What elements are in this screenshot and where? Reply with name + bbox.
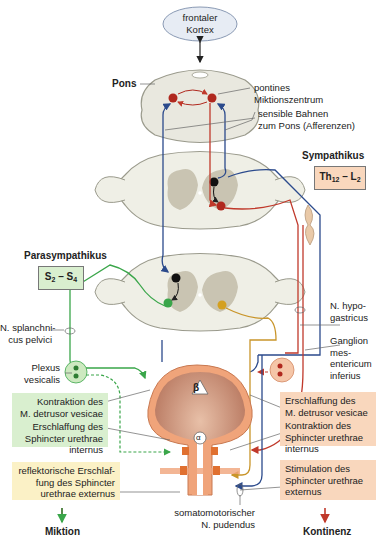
cortex-label-line1: frontaler (182, 12, 218, 24)
pudendal-label: somatomotorischer N. pudendus (170, 507, 255, 530)
outcome-continence: Kontinenz (303, 526, 351, 538)
seg-main: S (45, 271, 52, 282)
green-item2-line1: Erschlaffung des (17, 421, 103, 433)
ganglion-mesentericum (270, 358, 294, 382)
orange2-line2: Sphincter urethrae (285, 475, 371, 487)
beta-receptor: β (193, 382, 199, 394)
seg-main: Th (319, 171, 331, 182)
green-item2-line2: Sphincter urethrae (17, 433, 103, 445)
splanchnic-line1: N. splanchni- (0, 322, 52, 334)
orange-item2-line1: Kontraktion des (285, 420, 371, 432)
plexus-vesicalis (65, 361, 87, 383)
pudendal-line1: somatomotorischer (170, 507, 255, 519)
orange-item1-line2: M. detrusor vesicae (285, 407, 371, 419)
parasympathetic-title: Parasympathikus (24, 250, 107, 262)
spinal-cord-thoracolumbar (95, 152, 305, 230)
orange-item1-line1: Erschlaffung des (285, 395, 371, 407)
plexus-label: Plexus vesicalis (0, 362, 60, 385)
reflex-relaxation-box: reflektorische Erschlaf- fung des Sphinc… (12, 462, 120, 500)
orange2-line1: Stimulation des (285, 463, 371, 475)
pontine-center-line1: pontines (254, 82, 323, 94)
cortex-label: frontaler Kortex (182, 12, 218, 35)
seg-mid: – S (55, 271, 73, 282)
green-item2-line3: internus (17, 444, 103, 456)
afferent-line1: sensible Bahnen (258, 108, 355, 120)
orange-item2-line2: Sphincter urethrae (285, 432, 371, 444)
pontine-center-line2: Miktionszentrum (254, 94, 323, 106)
ganglion-line3: entericum (330, 358, 372, 370)
hypogastric-label: N. hypo- gastricus (330, 300, 368, 323)
seg-sub2: 2 (357, 176, 361, 183)
ganglion-line1: Ganglion (330, 335, 372, 347)
seg-sub2: 4 (73, 276, 77, 283)
afferent-label: sensible Bahnen zum Pons (Afferenzen) (258, 108, 355, 131)
ganglion-line4: inferius (330, 370, 372, 382)
hypogastric-line2: gastricus (330, 312, 368, 324)
pudendal-line2: N. pudendus (170, 519, 255, 531)
pons-label: Pons (112, 78, 136, 90)
yellow-line2: fung des Sphincter (17, 477, 115, 489)
hypogastric-line1: N. hypo- (330, 300, 368, 312)
ganglion-line2: mes- (330, 347, 372, 359)
sympathetic-effects-box: Erschlaffung des M. detrusor vesicae Kon… (280, 392, 376, 446)
splanchnic-line2: cus pelvici (0, 334, 52, 346)
external-sphincter-stimulation-box: Stimulation des Sphincter urethrae exter… (280, 460, 376, 500)
spinal-cord-sacral (95, 254, 305, 332)
cortex-label-line2: Kortex (182, 24, 218, 36)
plexus-line1: Plexus (0, 362, 60, 374)
sympathetic-title: Sympathikus (302, 150, 364, 162)
afferent-line2: zum Pons (Afferenzen) (258, 120, 355, 132)
yellow-line3: urethrae externus (17, 488, 115, 500)
green-item1-line2: M. detrusor vesicae (17, 408, 103, 420)
ganglion-label: Ganglion mes- entericum inferius (330, 335, 372, 381)
yellow-line1: reflektorische Erschlaf- (17, 465, 115, 477)
pons-shape (141, 70, 259, 143)
splanchnic-label: N. splanchni- cus pelvici (0, 322, 52, 345)
seg-mid: – L (339, 171, 356, 182)
plexus-line2: vesicalis (0, 374, 60, 386)
parasympathetic-segment-badge: S2 – S4 (38, 266, 84, 290)
outcome-micturition: Miktion (45, 526, 80, 538)
orange-item2-line3: internus (285, 443, 371, 455)
orange2-line3: externus (285, 486, 371, 498)
sympathetic-segment-badge: Th12 – L2 (314, 166, 366, 190)
alpha-receptor: α (196, 432, 201, 444)
pontine-center-label: pontines Miktionszentrum (254, 82, 323, 105)
parasympathetic-effects-box: Kontraktion des M. detrusor vesicae Ersc… (12, 393, 108, 447)
green-item1-line1: Kontraktion des (17, 396, 103, 408)
